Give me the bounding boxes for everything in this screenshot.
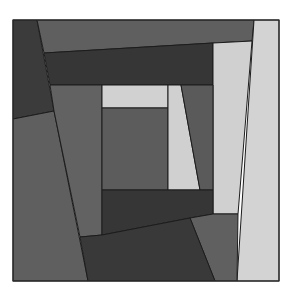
shape-group [13,20,279,281]
center-light-top [102,85,168,108]
geometric-artwork [0,0,302,292]
center-mid-square [102,108,168,190]
artwork-canvas [0,0,302,292]
